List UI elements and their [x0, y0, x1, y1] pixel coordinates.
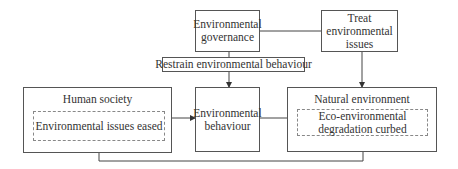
treat-environmental-issues-label: Treat environmental issues [322, 12, 397, 51]
treat-environmental-issues-node: Treat environmental issues [321, 10, 398, 52]
environmental-behaviour-label: Environmental behaviour [193, 107, 261, 133]
natural-environment-title: Natural environment [288, 93, 436, 106]
restrain-behaviour-label: Restrain environmental behaviour [155, 58, 311, 71]
eco-degradation-curbed-node: Eco-environmental degradation curbed [297, 109, 428, 136]
environmental-issues-eased-node: Environmental issues eased [33, 111, 165, 141]
natural-environment-node: Natural environment Eco-environmental de… [287, 87, 437, 152]
eco-degradation-curbed-label: Eco-environmental degradation curbed [298, 110, 427, 136]
environmental-behaviour-node: Environmental behaviour [195, 87, 260, 152]
environmental-governance-node: Environmental governance [195, 10, 260, 52]
environmental-issues-eased-label: Environmental issues eased [35, 120, 162, 133]
human-society-node: Human society Environmental issues eased [23, 87, 172, 153]
human-society-title: Human society [24, 93, 171, 106]
restrain-behaviour-label-box: Restrain environmental behaviour [162, 57, 305, 72]
environmental-governance-label: Environmental governance [193, 18, 261, 44]
